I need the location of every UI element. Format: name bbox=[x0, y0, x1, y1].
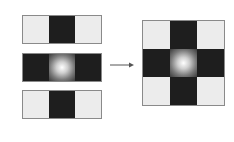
input-strip-middle bbox=[22, 53, 102, 82]
input-strip-top bbox=[22, 15, 102, 44]
grid-cell-dark bbox=[170, 21, 197, 49]
strip-cell-dark bbox=[23, 54, 49, 81]
grid-cell-light bbox=[143, 77, 170, 105]
strip-cell-light bbox=[75, 91, 101, 118]
input-strip-bottom bbox=[22, 90, 102, 119]
strip-cell-light bbox=[23, 91, 49, 118]
strip-cell-light bbox=[75, 16, 101, 43]
grid-cell-glow bbox=[170, 49, 197, 77]
grid-cell-dark bbox=[143, 49, 170, 77]
strip-cell-dark bbox=[49, 16, 75, 43]
grid-cell-dark bbox=[170, 77, 197, 105]
strip-cell-dark bbox=[75, 54, 101, 81]
output-grid bbox=[142, 20, 225, 106]
strip-cell-dark bbox=[49, 91, 75, 118]
grid-cell-light bbox=[197, 77, 224, 105]
strip-cell-glow bbox=[49, 54, 75, 81]
grid-cell-light bbox=[197, 21, 224, 49]
grid-cell-light bbox=[143, 21, 170, 49]
grid-cell-dark bbox=[197, 49, 224, 77]
right-arrow-icon bbox=[109, 61, 135, 69]
strip-cell-light bbox=[23, 16, 49, 43]
